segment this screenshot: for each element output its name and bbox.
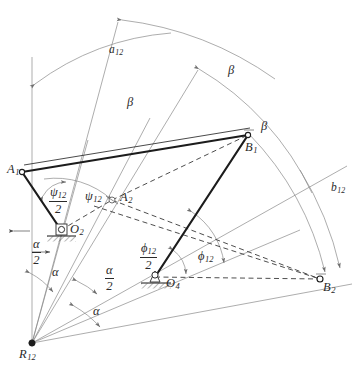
point-label-A2: A2 — [120, 191, 132, 205]
angle-label-alpha-upper: α — [52, 266, 59, 279]
angle-label-psi12-half: ψ12 2 — [49, 186, 67, 215]
construction-rays-from-pole — [32, 22, 352, 343]
joint-B1 — [245, 132, 250, 137]
dashed-second-position — [61, 135, 320, 279]
ray-b12 — [32, 166, 347, 343]
point-label-O4: O4 — [166, 277, 180, 291]
o2-joint-circle — [58, 226, 64, 232]
point-label-R12: R12 — [19, 348, 36, 362]
angle-label-alpha-half-mid: α 2 — [105, 264, 114, 292]
ray-b2 — [32, 284, 352, 343]
arc-b12-right — [249, 134, 325, 272]
link-edge-highlights — [24, 128, 250, 165]
angle-label-alpha-lower: α — [93, 305, 100, 318]
angle-label-beta-inner: β — [261, 120, 267, 133]
point-label-A1: A1 — [7, 163, 19, 177]
pole-R12 — [29, 340, 35, 346]
angle-label-beta-mid: β — [127, 96, 133, 109]
angle-label-beta-outer: β — [228, 64, 234, 77]
point-label-B2: B2 — [323, 281, 335, 295]
o4-joint-circle — [152, 272, 158, 278]
kinematic-diagram-figure: A1 A2 B1 B2 O2 O4 R12 a12 b12 β β β ψ12 … — [0, 0, 362, 374]
joint-A1 — [19, 169, 24, 174]
small-cross-ticks — [106, 130, 326, 274]
angle-label-psi12: ψ12 — [85, 190, 102, 204]
dashed-coupler-2 — [94, 206, 320, 279]
link-A1-B1 — [22, 135, 248, 172]
arc-beta-inner-right — [199, 69, 312, 193]
angle-label-phi12: ϕ12 — [198, 250, 213, 264]
arc-alpha-upper — [30, 273, 53, 292]
ray-a12 — [32, 22, 118, 343]
angle-label-phi12-half: ϕ12 2 — [140, 242, 157, 271]
coupler-edge-top — [24, 128, 250, 165]
dimension-label-b12: b12 — [331, 182, 345, 195]
point-label-B1: B1 — [245, 141, 257, 155]
point-label-O2: O2 — [70, 223, 84, 237]
arc-phi12-half — [173, 250, 186, 274]
dimension-label-a12: a12 — [109, 44, 123, 57]
arc-beta-outer — [122, 20, 275, 79]
arc-beta-mid — [35, 33, 171, 84]
angle-label-alpha-half-left: α 2 — [32, 238, 41, 266]
arc-alpha-half-mid — [77, 281, 97, 294]
ray-a2 — [32, 118, 150, 343]
